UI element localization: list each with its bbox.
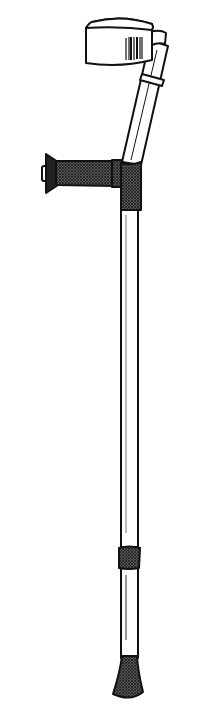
height-collar [119, 547, 140, 570]
hand-grip [56, 160, 122, 187]
rubber-tip [113, 656, 143, 698]
cuff-pattern [126, 37, 142, 60]
main-shaft [121, 210, 138, 658]
forearm-cuff [86, 18, 153, 64]
crutch-illustration [0, 0, 205, 714]
handle-joint [121, 162, 141, 210]
